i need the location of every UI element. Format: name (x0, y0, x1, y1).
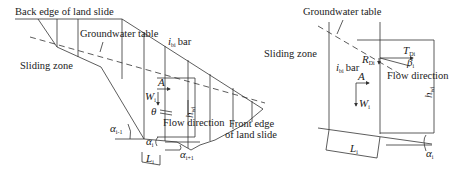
theta-label: θ (151, 105, 157, 117)
landslide-slice-diagram: Back edge of land slide Groundwater tabl… (0, 0, 462, 174)
beta-label: βi (406, 56, 414, 69)
right-W-label: Wi (359, 97, 370, 110)
right-slice-detail-figure: Groundwater table Sliding zone ibibar TD… (264, 6, 449, 160)
hw-label: hwi (183, 106, 196, 118)
right-L-label: Li (349, 142, 358, 155)
right-groundwater-table-label: Groundwater table (303, 6, 382, 17)
R-label: RDi (361, 53, 375, 66)
front-edge-label-1: Front edge (229, 118, 275, 129)
i-bar-label: ibibar (168, 35, 192, 48)
A-label: A (157, 76, 165, 88)
groundwater-table-label: Groundwater table (80, 28, 159, 39)
right-alpha-label: αi (426, 147, 434, 160)
W-label: Wi (145, 90, 156, 103)
right-hw-label: hwi (422, 86, 435, 98)
sliding-zone-label: Sliding zone (20, 60, 73, 71)
alpha-label: αi (146, 135, 154, 148)
right-sliding-zone-label: Sliding zone (264, 48, 317, 59)
left-slope-figure: Back edge of land slide Groundwater tabl… (15, 6, 277, 165)
right-A-label: A (357, 70, 365, 82)
alpha-prev-label: αi-1 (110, 122, 122, 135)
right-i-bar-label: ibibar (336, 61, 360, 74)
back-edge-label: Back edge of land slide (15, 6, 114, 17)
front-edge-label-2: of land slide (225, 129, 277, 140)
right-flow-direction-label: Flow direction (387, 70, 449, 81)
L-label: Li (145, 152, 154, 165)
